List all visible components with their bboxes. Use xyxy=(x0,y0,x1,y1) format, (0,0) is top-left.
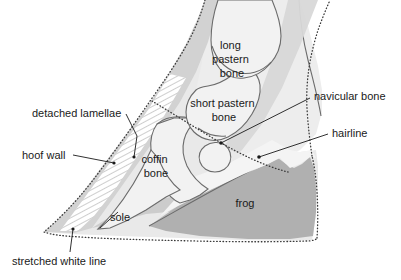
label-frog: frog xyxy=(236,197,255,209)
label-coffin-bone-line2: bone xyxy=(144,167,168,179)
label-short-pastern-bone-line2: bone xyxy=(212,111,236,123)
leader-dot-stretched-white-line xyxy=(71,227,74,230)
label-coffin-bone-line1: coffin xyxy=(141,153,167,165)
label-detached-lamellae: detached lamellae xyxy=(32,107,121,119)
label-long-pastern-bone-line1: long xyxy=(220,39,241,51)
label-long-pastern-bone-line3: bone xyxy=(220,67,244,79)
label-hairline: hairline xyxy=(332,127,367,139)
navicular-bone-shape-group xyxy=(199,142,231,172)
leader-dot-navicular-bone xyxy=(219,141,223,145)
label-navicular-bone: navicular bone xyxy=(314,90,386,102)
label-sole: sole xyxy=(110,211,130,223)
label-long-pastern-bone-line2: pastern xyxy=(212,53,249,65)
leader-dot-hoof-wall xyxy=(112,161,115,164)
leader-dot-hairline xyxy=(257,155,261,159)
label-hoof-wall: hoof wall xyxy=(22,149,65,161)
label-stretched-white-line: stretched white line xyxy=(12,255,106,267)
navicular-bone-shape xyxy=(199,142,231,172)
hoof-anatomy-diagram: detached lamellae hoof wall stretched wh… xyxy=(0,0,401,280)
hoof-diagram-canvas: detached lamellae hoof wall stretched wh… xyxy=(0,0,401,280)
label-short-pastern-bone-line1: short pastern xyxy=(190,97,254,109)
